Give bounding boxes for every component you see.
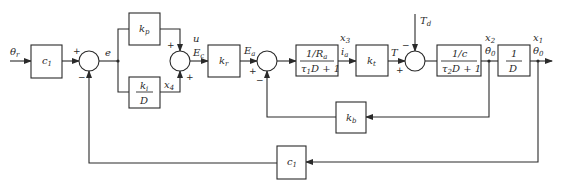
signal-Ec: Ec — [192, 47, 204, 60]
signal-theta0-dot: θ̇0 — [485, 45, 496, 58]
svg-text:+: + — [167, 40, 175, 50]
svg-text:+: + — [396, 65, 404, 75]
svg-text:−: − — [78, 72, 86, 82]
svg-text:D: D — [508, 63, 517, 74]
block-c1-feedback: c1 — [277, 146, 306, 179]
svg-text:1/c: 1/c — [452, 48, 468, 59]
summing-junction-1: + − — [73, 46, 99, 82]
block-integrator: 1 D — [498, 45, 530, 76]
signal-x1: x1 — [533, 32, 543, 45]
signal-x4: x4 — [164, 79, 174, 92]
block-load: 1/c τ2D + 1 — [437, 45, 481, 76]
block-kt: kt — [356, 45, 388, 76]
wire-c1-to-sum1 — [89, 71, 277, 163]
signal-Ea: Ea — [243, 45, 256, 58]
svg-text:−: − — [402, 40, 410, 50]
svg-text:D: D — [139, 95, 148, 106]
signal-theta0: θ0 — [533, 45, 544, 58]
input-theta-r: θr — [10, 46, 31, 61]
svg-text:+: + — [73, 46, 81, 56]
svg-text:+: + — [186, 72, 194, 82]
svg-text:θr: θr — [10, 46, 20, 59]
signal-Td: Td — [420, 15, 432, 28]
wire-to-ki — [118, 61, 129, 92]
signal-e: e — [105, 47, 111, 58]
signal-u: u — [193, 33, 199, 44]
block-kr: kr — [208, 45, 240, 77]
wire-kb-to-sum3 — [267, 71, 336, 117]
svg-text:−: − — [256, 75, 264, 85]
block-armature: 1/Ra τ1D + 1 — [296, 45, 340, 76]
block-diagram: θr c1 + − e kp ki D x4 + + u Ec — [0, 0, 563, 189]
signal-T: T — [391, 47, 399, 58]
signal-ia: ia — [341, 46, 348, 59]
block-c1-forward: c1 — [31, 45, 62, 78]
block-kp: kp — [129, 13, 160, 45]
signal-x2: x2 — [485, 32, 496, 45]
signal-x3: x3 — [340, 32, 351, 45]
block-ki-over-D: ki D — [129, 77, 160, 108]
summing-junction-4: − + — [396, 40, 425, 75]
wire-to-kp — [118, 29, 129, 61]
block-kb: kb — [336, 102, 366, 133]
svg-text:1: 1 — [511, 48, 517, 59]
